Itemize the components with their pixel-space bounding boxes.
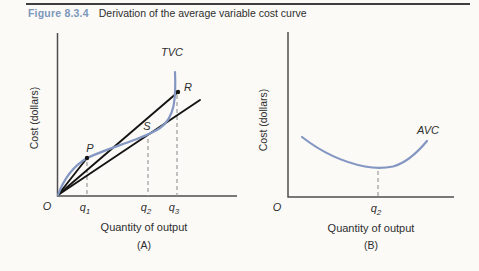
ray-o-to-p: [58, 158, 87, 195]
origin-label-b: O: [273, 201, 282, 213]
origin-label-a: O: [43, 200, 52, 212]
tvc-curve-label: TVC: [161, 46, 183, 58]
chart-a: TVC P S R O q1 q2 q3 Cost (dollars) Quan…: [28, 33, 237, 251]
point-p-marker: [85, 156, 89, 160]
y-axis-label-b: Cost (dollars): [257, 89, 269, 151]
point-r-label: R: [184, 81, 192, 93]
x-axis-label-a: Quantity of output: [101, 221, 188, 233]
point-r-marker: [176, 90, 180, 94]
y-axis-label-a: Cost (dollars): [28, 87, 40, 149]
figure-canvas: TVC P S R O q1 q2 q3 Cost (dollars) Quan…: [0, 0, 479, 271]
chart-b: AVC O q2 Cost (dollars) Quantity of outp…: [257, 32, 454, 251]
tick-q1-a: q1: [80, 201, 91, 216]
avc-curve: [302, 137, 427, 168]
panel-label-a: (A): [137, 239, 151, 251]
point-s-label: S: [143, 120, 151, 132]
panel-label-b: (B): [364, 239, 378, 251]
tick-q3-a: q3: [169, 201, 180, 216]
tick-q2-a: q2: [141, 201, 152, 216]
x-axis-label-b: Quantity of output: [328, 222, 415, 234]
axes-b: [288, 32, 454, 197]
tvc-curve: [58, 72, 175, 195]
tick-q2-b: q2: [371, 202, 382, 217]
avc-curve-label: AVC: [416, 124, 439, 136]
ray-tangent-through-s: [58, 100, 200, 195]
ray-o-to-r: [58, 92, 178, 195]
point-p-label: P: [86, 142, 94, 154]
